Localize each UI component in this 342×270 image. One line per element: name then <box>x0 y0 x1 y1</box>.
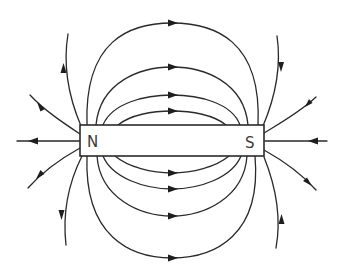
arrow-right-icon <box>168 108 178 115</box>
arrow-left-icon <box>308 138 318 145</box>
arrow-down-left-icon <box>36 170 45 179</box>
arrow-left-icon <box>28 138 38 145</box>
north-pole-label: N <box>87 133 98 151</box>
arrow-down-left-icon <box>305 99 313 107</box>
arrow-right-icon <box>168 186 178 193</box>
field-line-north-down <box>65 156 82 245</box>
arrow-right-icon <box>168 170 178 177</box>
field-loop-bottom-3 <box>97 156 247 216</box>
field-line-south-down <box>264 157 278 248</box>
field-line-south-lower-right <box>264 150 316 190</box>
arrow-down-icon <box>278 62 284 72</box>
south-pole-label: S <box>245 134 255 152</box>
field-lines-south-open <box>263 36 327 248</box>
arrow-right-icon <box>168 20 178 27</box>
arrow-right-icon <box>168 64 178 71</box>
bar-magnet-field-diagram: N S <box>0 0 342 270</box>
arrow-right-icon <box>168 213 178 220</box>
arrow-right-icon <box>168 255 178 262</box>
arrow-up-icon <box>279 214 285 224</box>
field-loops-top <box>87 20 258 126</box>
bar-magnet: N S <box>80 125 264 156</box>
field-line-north-up <box>66 34 81 126</box>
arrow-right-icon <box>168 92 178 99</box>
arrow-up-left-icon <box>37 102 45 112</box>
magnet-body <box>80 125 264 156</box>
field-loops-bottom <box>87 156 256 262</box>
field-lines-north-open <box>17 34 82 245</box>
field-line-south-up <box>263 36 279 126</box>
field-loop-bottom-inner <box>115 156 229 173</box>
arrow-down-icon <box>59 210 65 220</box>
